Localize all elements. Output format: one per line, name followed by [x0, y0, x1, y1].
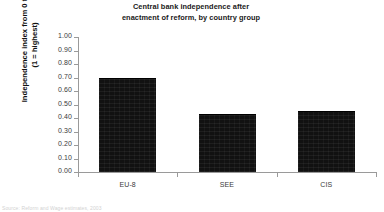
y-axis-tick-label: 0.30	[46, 127, 72, 134]
y-axis-tick-mark	[74, 64, 79, 65]
bar	[99, 78, 156, 173]
y-axis-tick-label: 0.40	[46, 113, 72, 120]
y-axis-tick-label: 0.20	[46, 140, 72, 147]
y-axis-tick-mark	[74, 145, 79, 146]
y-axis-tick-mark	[74, 118, 79, 119]
bar	[199, 114, 256, 172]
y-axis-tick-label: 0.90	[46, 46, 72, 53]
y-axis-tick-mark	[74, 51, 79, 52]
plot-area: 1.000.900.800.700.600.500.400.300.200.10…	[78, 37, 376, 172]
chart-title: Central bank independence after enactmen…	[62, 2, 320, 23]
chart-title-line-2: enactment of reform, by country group	[62, 13, 320, 24]
source-note: Source: Reform and Wage estimates, 2003	[2, 205, 102, 212]
y-axis-tick-label: 0.80	[46, 59, 72, 66]
y-axis-tick-label: 0.10	[46, 154, 72, 161]
y-axis-title: Independence index from 0 to 1 (1 = high…	[18, 0, 42, 115]
y-axis-tick-mark	[74, 132, 79, 133]
y-axis-tick-label: 0.60	[46, 86, 72, 93]
chart-figure: Central bank independence after enactmen…	[0, 0, 384, 212]
y-axis-tick-label: 0.00	[46, 167, 72, 174]
y-axis-tick-mark	[74, 78, 79, 79]
y-axis-title-line-2: (1 = highest)	[30, 22, 40, 67]
x-axis-line	[78, 172, 376, 173]
x-axis-category-label: CIS	[277, 181, 376, 188]
x-axis-tick-mark	[376, 172, 377, 177]
x-axis-tick-mark	[78, 172, 79, 177]
x-axis-category-label: EU-8	[78, 181, 177, 188]
x-axis-category-label: SEE	[177, 181, 276, 188]
y-axis-tick-label: 1.00	[46, 32, 72, 39]
y-axis-tick-mark	[74, 159, 79, 160]
x-axis-tick-mark	[277, 172, 278, 177]
y-axis-title-line-1: Independence index from 0 to 1	[20, 0, 30, 102]
bar	[298, 111, 355, 172]
y-axis-tick-label: 0.50	[46, 100, 72, 107]
x-axis-tick-mark	[177, 172, 178, 177]
y-axis-tick-mark	[74, 37, 79, 38]
y-axis-tick-mark	[74, 91, 79, 92]
chart-title-line-1: Central bank independence after	[62, 2, 320, 13]
y-axis-tick-label: 0.70	[46, 73, 72, 80]
y-axis-tick-mark	[74, 105, 79, 106]
